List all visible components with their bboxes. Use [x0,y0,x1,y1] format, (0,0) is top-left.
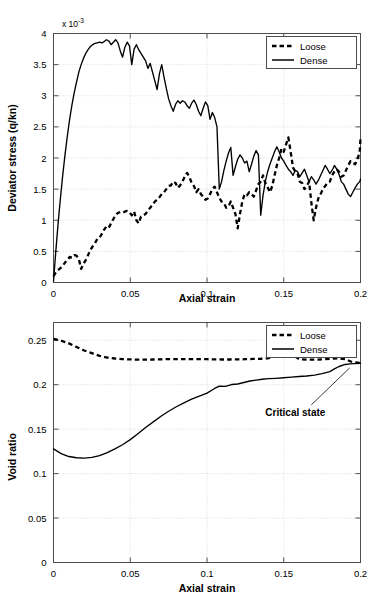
y-tick-label: 0.5 [33,246,46,257]
x-tick-label: 0.05 [121,288,140,299]
legend-label-loose-bottom: Loose [300,330,326,341]
gridlines-top [54,34,361,283]
legend-bottom[interactable]: Loose Dense [267,326,357,358]
x-tick-label: 0.15 [275,288,294,299]
critical-state-annotation: Critical state [265,407,325,418]
y-tick-label: 3 [41,90,46,101]
y-tick-label: 1 [41,215,46,226]
legend-label-loose-top: Loose [300,41,326,52]
y-axis-title-bottom: Void ratio [6,433,18,481]
critical-state-leader-line [311,368,349,405]
void-ratio-svg: 00.050.10.150.2 00.050.10.150.20.25 Crit… [0,307,388,614]
y-tick-label: 4 [41,28,46,39]
x-tick-label: 0.2 [354,288,367,299]
y-tick-label: 0.15 [28,424,47,435]
x-axis-title-top: Axial strain [179,292,236,304]
x-tick-labels-bottom: 00.050.10.150.2 [51,568,367,579]
x-axis-title-bottom: Axial strain [179,582,236,594]
y-axis-title-top: Deviator stress (q/kn) [6,104,18,211]
y-tick-label: 0.2 [33,379,46,390]
y-tick-label: 0 [41,557,46,568]
y-tick-label: 0.05 [28,513,47,524]
y-tick-label: 0.25 [28,335,47,346]
y-tick-label: 0 [41,277,46,288]
y-tick-label: 3.5 [33,59,46,70]
x-tick-label: 0.2 [354,568,367,579]
x-tick-label: 0 [51,288,56,299]
x-tick-label: 0.1 [200,568,213,579]
x-tick-label: 0.05 [121,568,140,579]
y-tick-labels-bottom: 00.050.10.150.20.25 [28,335,47,568]
chart-deviator-stress: 00.050.10.150.2 00.511.522.533.54 x 10-3… [0,0,388,307]
legend-label-dense-bottom: Dense [300,344,327,355]
y-exponent-top: x 10-3 [62,17,84,29]
y-tick-label: 2 [41,153,46,164]
figure-container: 00.050.10.150.2 00.511.522.533.54 x 10-3… [0,0,388,614]
chart-void-ratio: 00.050.10.150.2 00.050.10.150.20.25 Crit… [0,307,388,614]
y-tick-label: 0.1 [33,468,46,479]
x-tick-label: 0.15 [275,568,294,579]
legend-top[interactable]: Loose Dense [267,37,357,69]
y-tick-labels-top: 00.511.522.533.54 [33,28,46,288]
y-tick-label: 1.5 [33,184,46,195]
legend-label-dense-top: Dense [300,55,327,66]
deviator-stress-svg: 00.050.10.150.2 00.511.522.533.54 x 10-3… [0,0,388,307]
y-tick-label: 2.5 [33,121,46,132]
x-tick-label: 0 [51,568,56,579]
